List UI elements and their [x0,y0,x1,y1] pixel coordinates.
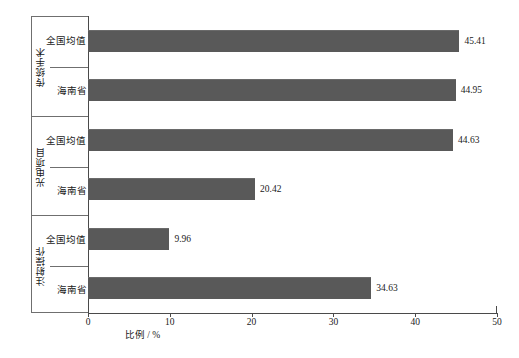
plot-area [88,16,497,313]
bar [88,79,456,101]
category-row-label: 全国均值 [46,37,88,47]
x-axis-tick-label: 50 [492,318,502,328]
bar [88,30,459,52]
bar-value-label: 9.96 [174,235,191,245]
x-axis-tick-label: 10 [165,318,175,328]
bar-value-label: 44.63 [458,136,479,146]
bar-value-label: 45.41 [464,37,485,47]
x-axis-title: 比例 / % [0,331,519,341]
x-axis-tick-label: 0 [86,318,91,328]
x-axis-title-text: 比例 / % [125,330,160,340]
category-group: 传统手术 全国均值 海南省 [32,17,88,116]
category-row: 全国均值 [32,117,88,167]
category-row-label: 海南省 [57,286,89,296]
x-axis-tick-label: 30 [329,318,339,328]
category-row-label: 海南省 [57,187,89,197]
category-row: 海南省 [50,67,89,117]
category-group: 光电项目 全国均值 海南省 [32,116,88,215]
category-row: 全国均值 [32,17,88,67]
category-row: 海南省 [50,167,89,217]
x-axis-line [88,313,497,314]
bar [88,277,371,299]
category-label-table: 传统手术 全国均值 海南省 光电项目 全国均值 海南省 注射操作 [31,16,88,313]
bar-value-label: 34.63 [376,284,397,294]
bar-value-label: 44.95 [461,86,482,96]
category-row-label: 全国均值 [46,137,88,147]
bar [88,228,169,250]
category-row-label: 全国均值 [46,236,88,246]
category-group: 注射操作 全国均值 海南省 [32,215,88,314]
category-row: 全国均值 [32,216,88,266]
x-axis-tick-label: 20 [247,318,257,328]
bar-value-label: 20.42 [260,185,281,195]
bar [88,178,255,200]
category-row-label: 海南省 [57,87,89,97]
category-row: 海南省 [50,266,89,316]
bar-chart: 传统手术 全国均值 海南省 光电项目 全国均值 海南省 注射操作 [0,0,519,358]
bar [88,129,453,151]
x-axis-tick-label: 40 [410,318,420,328]
